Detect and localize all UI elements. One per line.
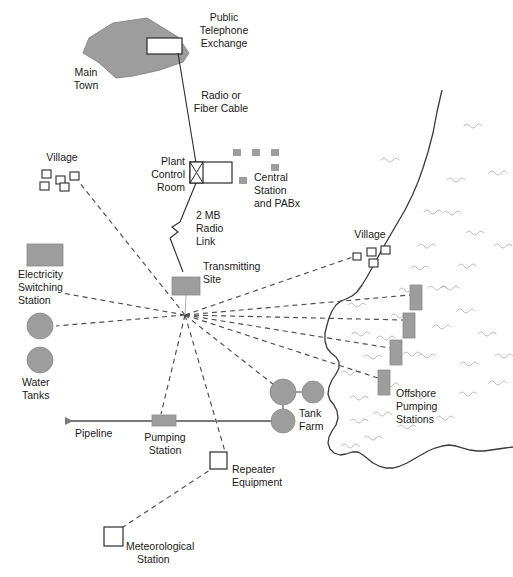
- offshore-pumping-station-4: [378, 370, 390, 395]
- plant-control-room-label-line2: Control: [151, 168, 185, 180]
- electricity-switching-station-label-line1: Electricity: [18, 268, 64, 280]
- offshore-pumping-station-3: [390, 340, 402, 365]
- water-tanks-label-line1: Water: [22, 376, 50, 388]
- repeater-equipment-node[interactable]: [210, 452, 227, 469]
- public-telephone-exchange-label-line1: Public: [210, 11, 239, 23]
- main-town-label-line2: Town: [74, 79, 99, 91]
- central-station-pabx-label-line2: Station: [254, 184, 287, 196]
- pumping-station-label-line1: Pumping: [144, 431, 186, 443]
- pumping-station-node[interactable]: [152, 415, 176, 426]
- electricity-switching-station-label-line3: Station: [18, 294, 51, 306]
- offshore-pumping-station-1: [410, 285, 422, 310]
- public-telephone-exchange-label-line3: Exchange: [201, 37, 248, 49]
- plant-control-room-label-line3: Room: [157, 181, 185, 193]
- village-left-label: Village: [46, 151, 77, 163]
- central-station-pabx-label-line1: Central: [254, 171, 288, 183]
- water-tanks-label-line2: Tanks: [22, 389, 49, 401]
- network-diagram: Main Town Public Telephone Exchange Radi…: [0, 0, 513, 577]
- repeater-equipment-label-line1: Repeater: [232, 463, 276, 475]
- meteorological-station-label-line2: Station: [137, 553, 170, 565]
- pipeline-label: Pipeline: [75, 427, 113, 439]
- public-telephone-exchange-label-line2: Telephone: [200, 24, 249, 36]
- public-telephone-exchange-box[interactable]: [147, 38, 182, 54]
- repeater-equipment-label-line2: Equipment: [232, 476, 282, 488]
- plant-control-room-node[interactable]: [190, 162, 232, 183]
- two-mb-radio-link-label-line2: Radio: [196, 222, 224, 234]
- offshore-pumping-station-2: [403, 313, 415, 338]
- transmitting-site-label-line1: Transmitting: [203, 260, 261, 272]
- tank-farm-label-line1: Tank: [299, 407, 322, 419]
- offshore-pumping-stations-label-line2: Pumping: [396, 400, 438, 412]
- pumping-station-label-line2: Station: [149, 444, 182, 456]
- two-mb-radio-link-label-line3: Link: [196, 235, 216, 247]
- meteorological-station-label-line1: Meteorological: [126, 540, 194, 552]
- tank-farm-label-line2: Farm: [299, 420, 324, 432]
- offshore-pumping-stations-label-line3: Stations: [396, 413, 434, 425]
- electricity-switching-station-node[interactable]: [27, 244, 63, 266]
- radio-or-fiber-cable-label-line2: Fiber Cable: [194, 102, 248, 114]
- radio-or-fiber-cable-label-line1: Radio or: [201, 89, 241, 101]
- electricity-switching-station-label-line2: Switching: [18, 281, 63, 293]
- two-mb-radio-link-label-line1: 2 MB: [196, 209, 221, 221]
- transmitting-site-label-line2: Site: [203, 273, 221, 285]
- meteorological-station-node[interactable]: [104, 527, 123, 546]
- plant-control-room-label-line1: Plant: [161, 155, 185, 167]
- central-station-pabx-label-line3: and PABx: [254, 197, 301, 209]
- main-town-label-line1: Main: [75, 66, 98, 78]
- village-right-label: Village: [354, 228, 385, 240]
- offshore-pumping-stations-label-line1: Offshore: [396, 387, 436, 399]
